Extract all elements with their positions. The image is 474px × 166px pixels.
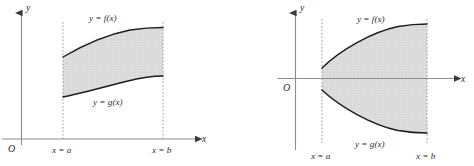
right-label-x-equals-b: x = b	[415, 151, 436, 161]
right-panel: y x O y = f(x) y = g(x) x = a x = b	[277, 2, 466, 161]
left-label-x-equals-a: x = a	[51, 145, 72, 155]
right-label-f: y = f(x)	[356, 14, 385, 24]
left-label-f: y = f(x)	[88, 13, 117, 23]
right-y-axis-label: y	[299, 2, 305, 13]
right-label-g: y = g(x)	[354, 139, 385, 149]
left-label-x-equals-b: x = b	[151, 145, 172, 155]
left-label-g: y = g(x)	[92, 97, 123, 107]
left-x-axis-label: x	[201, 133, 207, 144]
right-x-axis-label: x	[460, 73, 466, 84]
left-y-axis-label: y	[25, 2, 31, 13]
left-shaded-region	[63, 28, 163, 98]
right-label-x-equals-a: x = a	[310, 151, 331, 161]
left-origin-label: O	[8, 143, 15, 154]
left-panel: y x O y = f(x) y = g(x) x = a x = b	[2, 2, 207, 155]
right-origin-label: O	[283, 82, 290, 93]
math-figure-pair: y x O y = f(x) y = g(x) x = a x = b y x …	[0, 0, 474, 166]
